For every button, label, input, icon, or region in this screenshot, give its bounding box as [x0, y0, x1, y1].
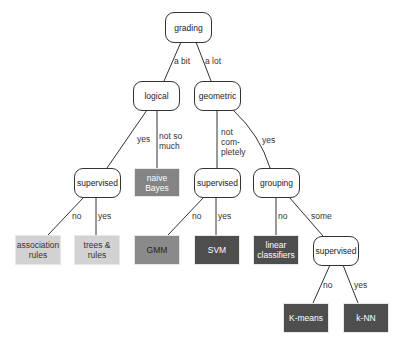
- edge-label-not-so-much: not so much: [159, 131, 182, 151]
- node-supervised-right: supervised: [313, 236, 359, 266]
- node-supervised-mid: supervised: [194, 168, 241, 198]
- leaf-k-means: K-means: [283, 303, 329, 333]
- node-supervised-left: supervised: [74, 168, 121, 198]
- edge-label-a-lot: a lot: [205, 56, 221, 66]
- edge-label-some: some: [311, 211, 332, 221]
- leaf-k-nn: k-NN: [343, 303, 389, 333]
- edge-label-yes: yes: [218, 211, 231, 221]
- node-logical: logical: [133, 81, 180, 111]
- leaf-naive-bayes: naive Bayes: [134, 168, 180, 197]
- leaf-gmm: GMM: [134, 235, 180, 265]
- node-geometric: geometric: [194, 81, 241, 111]
- leaf-svm: SVM: [194, 235, 240, 265]
- edge-label-a-bit: a bit: [174, 56, 190, 66]
- edge-label-yes: yes: [262, 135, 275, 145]
- edge-label-yes: yes: [98, 211, 111, 221]
- node-grading: grading: [165, 12, 212, 43]
- edge-label-no: no: [323, 280, 332, 290]
- leaf-linear-classifiers: linear classifiers: [253, 235, 299, 265]
- leaf-association-rules: association rules: [15, 235, 61, 265]
- leaf-trees-rules: trees & rules: [74, 235, 120, 265]
- edge-label-yes: yes: [354, 280, 367, 290]
- edge-label-no: no: [192, 211, 201, 221]
- edge-label-no: no: [72, 211, 81, 221]
- node-grouping: grouping: [253, 168, 300, 198]
- edge-label-yes: yes: [137, 134, 150, 144]
- edge-label-no: no: [278, 211, 287, 221]
- edge-label-not-completely: not com- pletely: [221, 127, 246, 157]
